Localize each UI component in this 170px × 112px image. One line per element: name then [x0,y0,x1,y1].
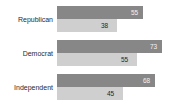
category-label-democrat: Democrat [0,50,53,57]
bar-track-independent: 68 45 [57,74,170,102]
bar-value-independent-light: 45 [107,91,114,98]
bar-group-democrat: Democrat 73 55 [0,40,170,68]
bar-value-independent-dark: 68 [143,78,150,85]
bar-value-republican-dark: 55 [131,10,138,17]
bar-group-republican: Republican 55 38 [0,6,170,34]
category-label-republican: Republican [0,16,53,23]
category-label-independent: Independent [0,84,53,91]
bar-independent-dark[interactable] [57,74,155,87]
bar-group-independent: Independent 68 45 [0,74,170,102]
bar-value-republican-light: 38 [101,23,108,30]
bar-track-democrat: 73 55 [57,40,170,68]
bar-value-democrat-dark: 73 [150,44,157,51]
bar-democrat-dark[interactable] [57,40,162,53]
bar-value-democrat-light: 55 [121,57,128,64]
horizontal-bar-chart: Republican 55 38 Democrat 73 55 Independ… [0,0,170,112]
bar-track-republican: 55 38 [57,6,170,34]
